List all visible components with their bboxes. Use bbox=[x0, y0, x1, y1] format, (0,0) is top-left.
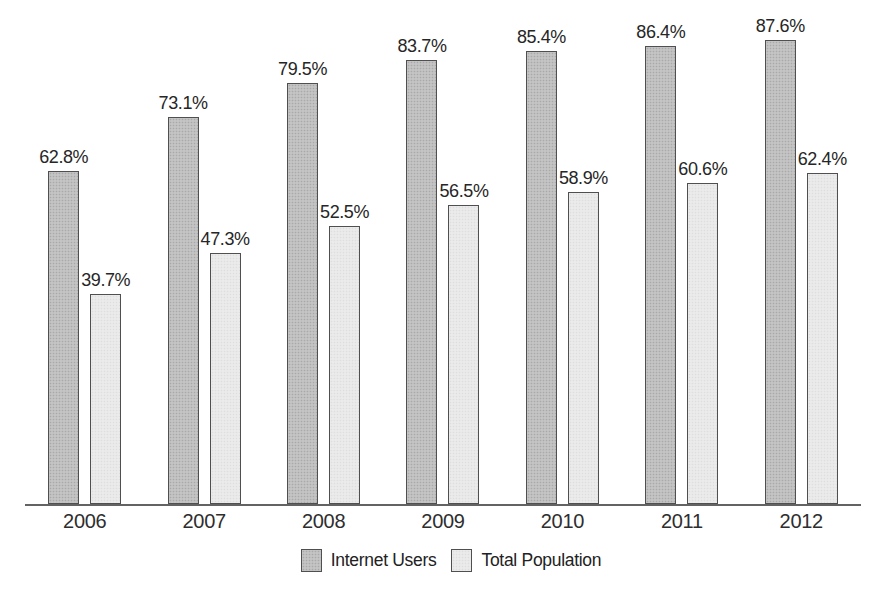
x-axis-label-2011: 2011 bbox=[622, 510, 741, 533]
bar-pair-2007: 73.1%47.3% bbox=[168, 94, 241, 504]
bar-value-label-total-population-2009: 56.5% bbox=[439, 182, 488, 202]
bar-group-2007: 73.1%47.3% bbox=[144, 0, 263, 504]
bar-internet-users-2012 bbox=[765, 40, 796, 504]
bar-value-label-total-population-2012: 62.4% bbox=[798, 150, 847, 170]
bar-column-total-population-2009: 56.5% bbox=[448, 182, 479, 504]
bar-value-label-internet-users-2012: 87.6% bbox=[756, 17, 805, 37]
bar-column-internet-users-2011: 86.4% bbox=[645, 23, 676, 504]
bar-pair-2012: 87.6%62.4% bbox=[765, 17, 838, 504]
bar-value-label-internet-users-2011: 86.4% bbox=[636, 23, 685, 43]
bar-value-label-total-population-2008: 52.5% bbox=[320, 203, 369, 223]
bar-group-2006: 62.8%39.7% bbox=[25, 0, 144, 504]
bar-internet-users-2009 bbox=[406, 60, 437, 504]
legend-item-internet-users: Internet Users bbox=[301, 549, 437, 572]
bar-group-2009: 83.7%56.5% bbox=[383, 0, 502, 504]
bar-column-total-population-2012: 62.4% bbox=[807, 150, 838, 504]
x-axis-label-2008: 2008 bbox=[264, 510, 383, 533]
bar-column-internet-users-2006: 62.8% bbox=[48, 148, 79, 504]
bar-value-label-total-population-2006: 39.7% bbox=[81, 271, 130, 291]
bar-column-total-population-2006: 39.7% bbox=[90, 271, 121, 504]
bar-value-label-internet-users-2007: 73.1% bbox=[159, 94, 208, 114]
bar-value-label-total-population-2011: 60.6% bbox=[678, 160, 727, 180]
legend-swatch-internet-users bbox=[301, 549, 322, 572]
bar-group-2012: 87.6%62.4% bbox=[742, 0, 861, 504]
bar-value-label-total-population-2010: 58.9% bbox=[559, 169, 608, 189]
bar-pair-2009: 83.7%56.5% bbox=[406, 37, 479, 504]
bar-pair-2011: 86.4%60.6% bbox=[645, 23, 718, 504]
bar-total-population-2011 bbox=[687, 183, 718, 504]
bar-column-total-population-2007: 47.3% bbox=[210, 230, 241, 504]
bar-total-population-2008 bbox=[329, 226, 360, 504]
bar-group-2008: 79.5%52.5% bbox=[264, 0, 383, 504]
bar-value-label-internet-users-2009: 83.7% bbox=[397, 37, 446, 57]
x-axis-label-2010: 2010 bbox=[503, 510, 622, 533]
bar-column-total-population-2008: 52.5% bbox=[329, 203, 360, 504]
bar-total-population-2007 bbox=[210, 253, 241, 504]
bar-column-internet-users-2007: 73.1% bbox=[168, 94, 199, 504]
bar-pair-2006: 62.8%39.7% bbox=[48, 148, 121, 504]
bar-group-2010: 85.4%58.9% bbox=[503, 0, 622, 504]
x-axis-label-2009: 2009 bbox=[383, 510, 502, 533]
bar-value-label-internet-users-2006: 62.8% bbox=[39, 148, 88, 168]
bar-groups: 62.8%39.7%73.1%47.3%79.5%52.5%83.7%56.5%… bbox=[25, 0, 861, 504]
bar-internet-users-2008 bbox=[287, 83, 318, 504]
bar-total-population-2006 bbox=[90, 294, 121, 504]
bar-column-internet-users-2009: 83.7% bbox=[406, 37, 437, 504]
bar-chart: 62.8%39.7%73.1%47.3%79.5%52.5%83.7%56.5%… bbox=[0, 0, 884, 600]
bar-value-label-total-population-2007: 47.3% bbox=[201, 230, 250, 250]
bar-column-total-population-2010: 58.9% bbox=[568, 169, 599, 504]
x-axis-label-2007: 2007 bbox=[144, 510, 263, 533]
bar-value-label-internet-users-2008: 79.5% bbox=[278, 60, 327, 80]
bar-internet-users-2006 bbox=[48, 171, 79, 504]
bar-column-internet-users-2012: 87.6% bbox=[765, 17, 796, 504]
bar-total-population-2012 bbox=[807, 173, 838, 504]
x-axis-label-2012: 2012 bbox=[742, 510, 861, 533]
bar-pair-2010: 85.4%58.9% bbox=[526, 28, 599, 504]
legend-swatch-total-population bbox=[451, 549, 472, 572]
legend-item-total-population: Total Population bbox=[451, 549, 601, 572]
bar-group-2011: 86.4%60.6% bbox=[622, 0, 741, 504]
plot-area: 62.8%39.7%73.1%47.3%79.5%52.5%83.7%56.5%… bbox=[25, 0, 861, 506]
bar-column-total-population-2011: 60.6% bbox=[687, 160, 718, 504]
bar-column-internet-users-2008: 79.5% bbox=[287, 60, 318, 504]
legend-label-internet-users: Internet Users bbox=[331, 550, 437, 571]
bar-internet-users-2010 bbox=[526, 51, 557, 504]
x-axis-labels: 2006200720082009201020112012 bbox=[25, 510, 861, 533]
bar-pair-2008: 79.5%52.5% bbox=[287, 60, 360, 504]
bar-value-label-internet-users-2010: 85.4% bbox=[517, 28, 566, 48]
legend-label-total-population: Total Population bbox=[481, 550, 601, 571]
legend: Internet Users Total Population bbox=[0, 549, 884, 572]
bar-internet-users-2011 bbox=[645, 46, 676, 504]
bar-column-internet-users-2010: 85.4% bbox=[526, 28, 557, 504]
bar-total-population-2010 bbox=[568, 192, 599, 504]
bar-internet-users-2007 bbox=[168, 117, 199, 504]
bar-total-population-2009 bbox=[448, 205, 479, 504]
x-axis-label-2006: 2006 bbox=[25, 510, 144, 533]
